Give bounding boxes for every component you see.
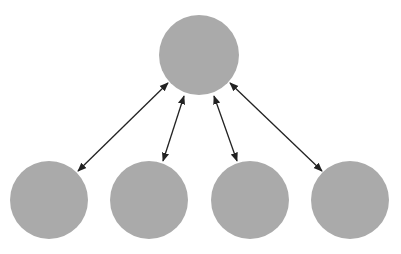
node-leaf-3 bbox=[211, 161, 289, 239]
bidirectional-arrow-4 bbox=[230, 83, 322, 171]
nodes bbox=[10, 15, 389, 239]
node-leaf-4 bbox=[311, 161, 389, 239]
hub-spoke-diagram bbox=[0, 0, 401, 254]
node-leaf-2 bbox=[110, 161, 188, 239]
node-leaf-1 bbox=[10, 161, 88, 239]
edges bbox=[78, 83, 322, 171]
bidirectional-arrow-2 bbox=[163, 96, 184, 161]
hub-node bbox=[159, 15, 239, 95]
bidirectional-arrow-3 bbox=[214, 96, 237, 161]
bidirectional-arrow-1 bbox=[78, 83, 168, 171]
